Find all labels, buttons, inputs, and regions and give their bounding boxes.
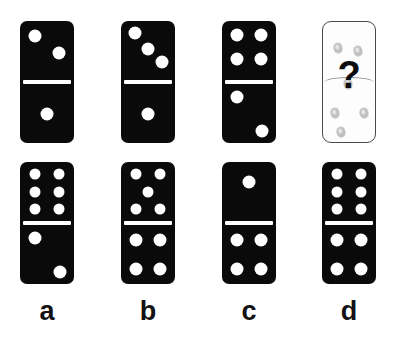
ghost-pip xyxy=(335,126,346,138)
domino-pip xyxy=(243,176,256,189)
ghost-pip xyxy=(332,42,343,54)
option-label-a[interactable]: a xyxy=(17,298,77,325)
domino-pip xyxy=(153,262,166,275)
domino-pip xyxy=(29,231,42,244)
domino-pip xyxy=(331,234,344,247)
domino-pip xyxy=(356,204,367,215)
domino-pip xyxy=(143,186,154,197)
domino-tile[interactable] xyxy=(121,162,175,284)
option-label-b[interactable]: b xyxy=(118,298,178,325)
domino-divider xyxy=(124,221,172,225)
domino-pip xyxy=(231,234,244,247)
option-label-d[interactable]: d xyxy=(319,298,379,325)
domino-half-bottom xyxy=(322,225,376,284)
domino-half-bottom xyxy=(222,225,276,284)
question-mark: ? xyxy=(337,56,360,94)
domino-half-top xyxy=(322,162,376,221)
domino-divider xyxy=(325,221,373,225)
domino-pip xyxy=(356,168,367,179)
domino-pip xyxy=(54,168,65,179)
domino-pip xyxy=(130,262,143,275)
domino-pip xyxy=(53,266,66,279)
domino-tile[interactable] xyxy=(222,162,276,284)
domino-pip xyxy=(254,29,267,42)
domino-pip xyxy=(331,262,344,275)
domino-pip xyxy=(231,90,244,103)
domino-divider xyxy=(225,80,273,84)
domino-half-bottom xyxy=(20,225,74,284)
domino-pip xyxy=(54,204,65,215)
domino-pip xyxy=(155,204,166,215)
domino-half-top xyxy=(121,21,175,80)
domino-divider xyxy=(23,221,71,225)
domino-pip xyxy=(254,52,267,65)
domino-pip xyxy=(130,234,143,247)
ghost-pip xyxy=(330,107,341,119)
domino-half-top xyxy=(222,21,276,80)
domino-half-bottom xyxy=(222,84,276,143)
domino-pip xyxy=(231,52,244,65)
domino-pip xyxy=(155,168,166,179)
option-label-c[interactable]: c xyxy=(219,298,279,325)
ghost-pip xyxy=(358,107,369,119)
domino-pip xyxy=(54,186,65,197)
domino-divider xyxy=(23,80,71,84)
domino-pip xyxy=(130,168,141,179)
domino-pip xyxy=(331,186,342,197)
domino-pip xyxy=(52,47,65,60)
domino-pip xyxy=(29,168,40,179)
domino-tile[interactable] xyxy=(322,162,376,284)
domino-pip xyxy=(356,186,367,197)
domino-pip xyxy=(354,234,367,247)
domino-half-bottom xyxy=(121,225,175,284)
domino-pip xyxy=(29,186,40,197)
domino-pip xyxy=(354,262,367,275)
domino-half-top xyxy=(20,162,74,221)
domino-pip xyxy=(155,56,168,69)
domino-divider xyxy=(124,80,172,84)
domino-half-top xyxy=(121,162,175,221)
domino-pip xyxy=(29,204,40,215)
domino-divider xyxy=(225,221,273,225)
domino-half-top xyxy=(20,21,74,80)
domino-pip xyxy=(231,262,244,275)
domino-tile xyxy=(121,21,175,143)
domino-tile xyxy=(222,21,276,143)
domino-pip xyxy=(331,168,342,179)
domino-half-top xyxy=(222,162,276,221)
domino-pip xyxy=(142,107,155,120)
domino-half-bottom xyxy=(20,84,74,143)
domino-pip xyxy=(129,27,142,40)
domino-pip xyxy=(142,42,155,55)
domino-pip xyxy=(255,125,268,138)
domino-pip xyxy=(29,29,42,42)
domino-pip xyxy=(231,29,244,42)
domino-pip xyxy=(153,234,166,247)
domino-tile-mystery: ? xyxy=(322,21,376,143)
domino-pip xyxy=(254,234,267,247)
domino-pip xyxy=(331,204,342,215)
domino-pip xyxy=(254,262,267,275)
domino-tile[interactable] xyxy=(20,162,74,284)
domino-tile xyxy=(20,21,74,143)
domino-pip xyxy=(130,204,141,215)
domino-half-bottom xyxy=(121,84,175,143)
domino-puzzle: ?abcd xyxy=(0,0,395,339)
domino-pip xyxy=(41,107,54,120)
